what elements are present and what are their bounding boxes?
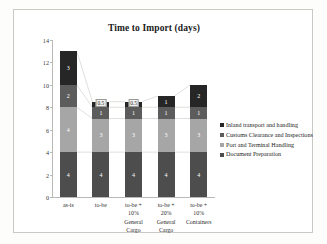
bar-segment-value-label: 4 [67, 127, 70, 133]
legend-swatch-icon [220, 153, 224, 157]
bar-segment[interactable]: 4 [60, 152, 77, 197]
x-axis-category-label-line: as-is [50, 201, 86, 209]
bar-segment[interactable]: 1 [190, 107, 207, 118]
legend-item-label: Port and Terminal Handling [226, 142, 294, 150]
bar-segment[interactable]: 3 [190, 119, 207, 153]
x-axis-category-label-line: General [116, 218, 152, 226]
x-axis-category-label-line: to-be + [181, 201, 217, 209]
x-axis-category-label: to-be +20%GeneralCargo [148, 201, 184, 235]
bar-segment-value-label: 2 [67, 93, 70, 99]
bar-segment[interactable]: 1 [125, 107, 142, 118]
x-axis-category-label-line: 10% [181, 209, 217, 217]
bar-stack[interactable]: 0.5134 [125, 102, 142, 197]
bar-segment-value-label: 4 [99, 172, 102, 178]
x-axis-category-label-line: to-be + [116, 201, 152, 209]
x-axis-category-label-line: 10% [116, 209, 152, 217]
bar-segment-value-label: 1 [197, 110, 200, 116]
x-axis-category-label-line: Containers [181, 218, 217, 226]
bar-segment-value-label: 1 [165, 110, 168, 116]
bar-segment-value-label: 3 [132, 132, 135, 138]
legend-item[interactable]: Inland transport and handling [220, 122, 327, 130]
chart-legend: Inland transport and handlingCustoms Cle… [220, 122, 327, 161]
x-axis-category-label-line: General [148, 218, 184, 226]
x-axis-category-label-line: Cargo [116, 226, 152, 234]
bar-segment[interactable]: 4 [125, 152, 142, 197]
bar-segment[interactable]: 4 [60, 107, 77, 152]
bar-segment-value-label: 4 [132, 172, 135, 178]
bar-segment[interactable]: 1 [158, 96, 175, 107]
bar-segment[interactable]: 4 [158, 152, 175, 197]
bar-segment-value-label: 3 [67, 65, 70, 71]
x-axis-category-label: to-be +10%Containers [181, 201, 217, 226]
y-axis-tick-label: 14 [43, 37, 49, 44]
legend-swatch-icon [220, 133, 224, 137]
bar-segment-value-label: 0.5 [128, 99, 139, 107]
bar-segment[interactable]: 2 [190, 85, 207, 107]
legend-item[interactable]: Document Preparation [220, 151, 327, 159]
x-axis-category-label: to-be [83, 201, 119, 209]
bar-segment[interactable]: 3 [60, 51, 77, 85]
bar-segment-value-label: 4 [67, 172, 70, 178]
bar-segment-value-label: 4 [197, 172, 200, 178]
x-axis-category-label: to-be +10%GeneralCargo [116, 201, 152, 235]
legend-item-label: Customs Clearance and Inspections [226, 132, 313, 140]
bar-segment[interactable]: 1 [92, 107, 109, 118]
bar-segment[interactable]: 3 [158, 119, 175, 153]
bar-segment-value-label: 1 [99, 110, 102, 116]
bar-segment[interactable]: 1 [158, 107, 175, 118]
bar-stack[interactable]: 3244 [60, 51, 77, 197]
bar-segment[interactable]: 4 [190, 152, 207, 197]
plot-area: 02468101214 32440.51340.513411342134 [52, 40, 215, 198]
chart-title: Time to Import (days) [64, 23, 244, 33]
legend-swatch-icon [220, 143, 224, 147]
bar-segment-value-label: 1 [132, 110, 135, 116]
legend-item[interactable]: Customs Clearance and Inspections [220, 132, 327, 140]
bar-segment-value-label: 4 [165, 172, 168, 178]
chart-root: Time to Import (days) 02468101214 32440.… [0, 0, 327, 244]
bar-stack[interactable]: 0.5134 [92, 102, 109, 197]
x-axis-category-label-line: 20% [148, 209, 184, 217]
bar-segment-value-label: 3 [99, 132, 102, 138]
legend-item-label: Inland transport and handling [226, 122, 298, 130]
legend-swatch-icon [220, 123, 224, 127]
bar-segment-value-label: 3 [165, 132, 168, 138]
y-axis-tick-label: 10 [43, 81, 49, 88]
x-axis-category-label-line: to-be [83, 201, 119, 209]
x-axis-category-label-line: to-be + [148, 201, 184, 209]
bar-segment[interactable]: 3 [92, 119, 109, 153]
y-axis-tick-label: 12 [43, 59, 49, 66]
bar-segment[interactable]: 2 [60, 85, 77, 107]
bar-stack[interactable]: 1134 [158, 96, 175, 197]
legend-item-label: Document Preparation [226, 151, 281, 159]
bar-segment-value-label: 2 [197, 93, 200, 99]
bar-series-container: 32440.51340.513411342134 [52, 40, 215, 198]
bar-segment[interactable]: 3 [125, 119, 142, 153]
bar-segment-value-label: 0.5 [96, 99, 107, 107]
x-axis-labels: as-isto-beto-be +10%GeneralCargoto-be +2… [52, 201, 215, 244]
bar-stack[interactable]: 2134 [190, 85, 207, 197]
bar-segment[interactable]: 4 [92, 152, 109, 197]
bar-segment-value-label: 3 [197, 132, 200, 138]
figure-frame: Time to Import (days) 02468101214 32440.… [13, 9, 313, 233]
legend-item[interactable]: Port and Terminal Handling [220, 142, 327, 150]
x-axis-category-label: as-is [50, 201, 86, 209]
bar-segment-value-label: 1 [165, 99, 168, 105]
x-axis-category-label-line: Cargo [148, 226, 184, 234]
